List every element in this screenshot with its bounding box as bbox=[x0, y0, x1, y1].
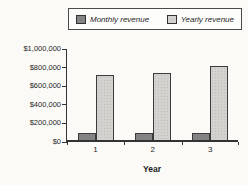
x-axis-category-label: 1 bbox=[67, 145, 124, 154]
bar-monthly-year-3 bbox=[192, 133, 210, 140]
x-axis-category-label: 2 bbox=[124, 145, 181, 154]
legend-swatch-monthly bbox=[76, 15, 86, 24]
chart-legend: Monthly revenueYearly revenue bbox=[68, 8, 242, 30]
y-axis-tick bbox=[62, 123, 67, 124]
y-axis-tick-label: $600,000 bbox=[1, 82, 61, 90]
plot-area: $0$200,000$400,000$600,000$800,000$1,000… bbox=[66, 49, 238, 142]
legend-swatch-yearly bbox=[167, 15, 177, 24]
y-axis-tick bbox=[62, 86, 67, 87]
x-axis-title: Year bbox=[66, 164, 238, 174]
bar-yearly-year-2 bbox=[153, 73, 171, 140]
y-axis-tick bbox=[62, 67, 67, 68]
y-axis-tick-label: $400,000 bbox=[1, 101, 61, 109]
legend-label: Monthly revenue bbox=[90, 15, 149, 24]
x-axis-category-label: 3 bbox=[182, 145, 239, 154]
y-axis-tick-label: $0 bbox=[1, 138, 61, 146]
y-axis-tick-label: $1,000,000 bbox=[1, 45, 61, 53]
bar-monthly-year-2 bbox=[135, 133, 153, 140]
legend-item-monthly: Monthly revenue bbox=[76, 15, 149, 24]
bar-yearly-year-3 bbox=[210, 66, 228, 140]
y-axis-tick bbox=[62, 49, 67, 50]
legend-item-yearly: Yearly revenue bbox=[167, 15, 234, 24]
y-axis-tick bbox=[62, 104, 67, 105]
bar-monthly-year-1 bbox=[78, 133, 96, 140]
y-axis-tick-label: $200,000 bbox=[1, 119, 61, 127]
legend-label: Yearly revenue bbox=[181, 15, 234, 24]
revenue-bar-chart: Monthly revenueYearly revenue $0$200,000… bbox=[0, 0, 248, 185]
bar-yearly-year-1 bbox=[96, 75, 114, 140]
y-axis-tick-label: $800,000 bbox=[1, 64, 61, 72]
